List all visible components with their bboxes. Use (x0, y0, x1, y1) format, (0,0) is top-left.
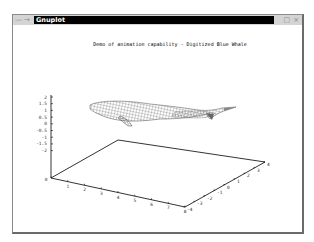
plot-title: Demo of animation capability - Digitized… (93, 41, 247, 48)
z-tick-label: -2 (42, 148, 48, 153)
z-tick-label: 1.5 (39, 101, 47, 106)
y-tick-label: -4 (187, 207, 193, 212)
x-tick-label: 3 (100, 191, 103, 196)
z-axis: 21.510.50-0.5-1-1.5-2 (36, 95, 53, 179)
x-tick-label: 6 (150, 202, 153, 207)
whale-surface (90, 101, 236, 126)
x-tick-label: 5 (133, 198, 136, 203)
y-tick-label: -3 (197, 201, 203, 206)
y-tick-label: 1 (237, 179, 240, 184)
y-axis-ticks: -4-3-2-101234 (184, 162, 271, 212)
z-tick-label: 2 (44, 95, 47, 100)
base-grid (51, 140, 265, 207)
plot-canvas: Demo of animation capability - Digitized… (0, 0, 314, 242)
x-tick-label: 1 (66, 184, 69, 189)
z-tick-label: -1.5 (36, 141, 47, 146)
y-tick-label: 0 (227, 185, 230, 190)
y-tick-label: -1 (217, 190, 223, 195)
x-tick-label: 0 (45, 177, 48, 182)
y-tick-label: -2 (207, 196, 213, 201)
y-tick-label: 3 (257, 168, 260, 173)
x-tick-label: 4 (117, 195, 120, 200)
z-tick-label: -0.5 (36, 128, 47, 133)
x-tick-label: 2 (83, 187, 86, 192)
y-tick-label: 2 (247, 173, 250, 178)
x-axis-ticks: 012345678 (45, 177, 187, 215)
x-back-edge (118, 140, 265, 162)
y-tick-label: 4 (267, 162, 270, 167)
z-tick-label: -1 (42, 135, 48, 140)
x-tick-label: 7 (167, 205, 170, 210)
z-tick-label: 1 (44, 108, 47, 113)
z-tick-label: 0.5 (39, 115, 47, 120)
y-back-left-edge (51, 140, 118, 178)
z-tick-label: 0 (44, 121, 47, 126)
